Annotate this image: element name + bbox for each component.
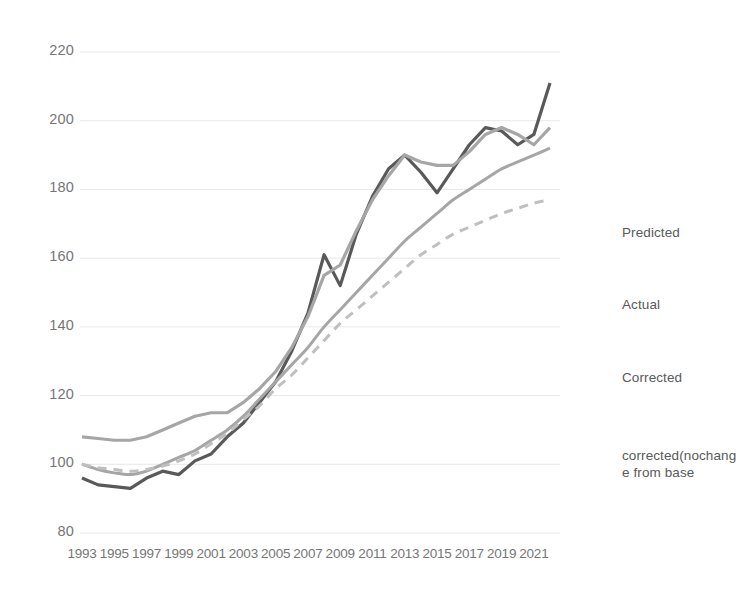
legend-label: corrected(nochang e from base — [622, 447, 736, 481]
legend-item[interactable]: Predicted — [568, 224, 680, 241]
legend-label: Predicted — [622, 224, 680, 241]
chart-container: 22020018016014012010080 1993199519971999… — [0, 0, 750, 604]
legend-item[interactable]: corrected(nochang e from base — [568, 447, 736, 481]
legend-label: Corrected — [622, 369, 682, 386]
legend-label: Actual — [622, 296, 660, 313]
series-line-corrected — [82, 148, 550, 474]
series-line-predicted — [82, 83, 550, 488]
legend-item[interactable]: Corrected — [568, 369, 682, 386]
legend-item[interactable]: Actual — [568, 296, 660, 313]
